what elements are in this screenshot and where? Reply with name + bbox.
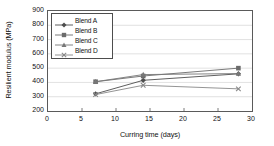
x-axis-tick-labels: 051015202530 (0, 115, 274, 127)
legend-item-blend-a[interactable]: Blend A (54, 16, 110, 26)
legend-item-blend-d[interactable]: Blend D (54, 46, 110, 56)
legend-label: Blend A (75, 17, 97, 25)
x-tick-label: 5 (71, 115, 91, 123)
legend-marker-icon (54, 16, 74, 26)
y-tick-label: 300 (22, 92, 44, 100)
y-tick-label: 800 (22, 20, 44, 28)
x-tick-label: 20 (173, 115, 193, 123)
y-tick-label: 200 (22, 106, 44, 114)
y-tick-label: 700 (22, 35, 44, 43)
y-tick-label: 400 (22, 77, 44, 85)
legend-label: Blend C (75, 37, 98, 45)
legend-label: Blend D (75, 47, 98, 55)
data-point-marker (236, 66, 241, 71)
series-blend-c (93, 71, 241, 84)
legend-label: Blend B (75, 27, 97, 35)
series-blend-d (93, 83, 240, 97)
series-line (96, 85, 239, 94)
y-axis-title: Resilient modulus (MPa) (1, 4, 15, 116)
resilient-modulus-line-chart: Resilient modulus (MPa) 9008007006005004… (0, 0, 274, 146)
legend-marker-icon (54, 46, 74, 56)
y-tick-label: 500 (22, 63, 44, 71)
x-tick-label: 10 (105, 115, 125, 123)
x-tick-label: 25 (207, 115, 227, 123)
legend-marker-icon (54, 26, 74, 36)
plot-area: Blend ABlend BBlend CBlend D (47, 10, 253, 112)
legend-marker-icon (54, 36, 74, 46)
legend-item-blend-b[interactable]: Blend B (54, 26, 110, 36)
legend: Blend ABlend BBlend CBlend D (51, 13, 113, 59)
x-tick-label: 30 (241, 115, 261, 123)
x-tick-label: 0 (37, 115, 57, 123)
series-line (96, 74, 239, 94)
series-line (96, 74, 239, 82)
series-blend-a (93, 71, 241, 96)
y-tick-label: 600 (22, 49, 44, 57)
y-tick-label: 900 (22, 6, 44, 14)
x-tick-label: 15 (139, 115, 159, 123)
legend-item-blend-c[interactable]: Blend C (54, 36, 110, 46)
x-axis-title: Curring time (days) (47, 130, 253, 139)
